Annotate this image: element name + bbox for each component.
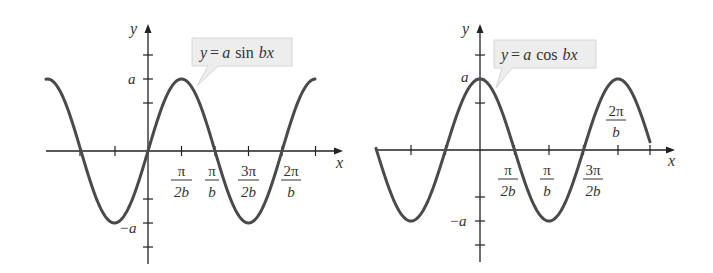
- y-label-a: a: [128, 71, 136, 87]
- svg-text:b: b: [612, 124, 620, 140]
- y-axis-arrow-icon: [477, 24, 484, 33]
- cosine-equation-text: y=acosbx: [499, 46, 578, 64]
- y-axis-label: y: [128, 20, 138, 38]
- svg-text:2b: 2b: [241, 184, 257, 200]
- svg-text:3π: 3π: [241, 163, 257, 179]
- x-axis-label: x: [335, 154, 343, 171]
- svg-text:2b: 2b: [501, 183, 517, 199]
- sine-graph: y x a −a π 2b π b 3π 2b 2π b y=as: [46, 20, 343, 264]
- y-label-neg-a: −a: [119, 220, 137, 236]
- y-axis-arrow-icon: [145, 24, 152, 33]
- y-axis-label: y: [460, 20, 470, 38]
- svg-text:2π: 2π: [283, 163, 299, 179]
- sine-equation-callout: y=asinbx: [192, 38, 292, 86]
- svg-text:π: π: [178, 163, 186, 179]
- y-label-a: a: [461, 69, 469, 85]
- x-label-pi-over-b: π b: [205, 163, 219, 200]
- svg-text:b: b: [208, 184, 216, 200]
- x-label-3pi-over-2b: 3π 2b: [238, 163, 259, 200]
- x-label-2pi-over-b: 2π b: [281, 163, 301, 200]
- x-axis-label: x: [667, 152, 675, 169]
- svg-text:2b: 2b: [586, 183, 602, 199]
- cosine-graph: y x a −a π 2b π b 3π 2b 2π b y=acosbx: [375, 20, 675, 262]
- y-label-neg-a: −a: [449, 213, 467, 229]
- x-label-pi-over-2b: π 2b: [171, 163, 192, 200]
- x-label-2pi-over-b: 2π b: [606, 103, 626, 140]
- svg-text:π: π: [208, 163, 216, 179]
- sine-equation-text: y=asinbx: [198, 44, 274, 62]
- svg-text:π: π: [504, 162, 512, 178]
- trig-graphs: y x a −a π 2b π b 3π 2b 2π b y=as: [0, 0, 713, 273]
- svg-text:b: b: [543, 183, 551, 199]
- svg-text:2b: 2b: [174, 184, 190, 200]
- svg-text:2π: 2π: [608, 103, 624, 119]
- svg-text:b: b: [287, 184, 295, 200]
- x-label-pi-over-2b: π 2b: [498, 162, 518, 199]
- svg-text:3π: 3π: [585, 162, 601, 178]
- cosine-equation-callout: y=acosbx: [494, 40, 596, 88]
- svg-text:π: π: [543, 162, 551, 178]
- x-label-pi-over-b: π b: [540, 162, 554, 199]
- x-label-3pi-over-2b: 3π 2b: [583, 162, 603, 199]
